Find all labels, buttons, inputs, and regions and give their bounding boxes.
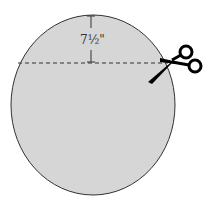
cut-diagram: 7½"	[0, 0, 210, 202]
measurement-label: 7½"	[80, 33, 105, 47]
